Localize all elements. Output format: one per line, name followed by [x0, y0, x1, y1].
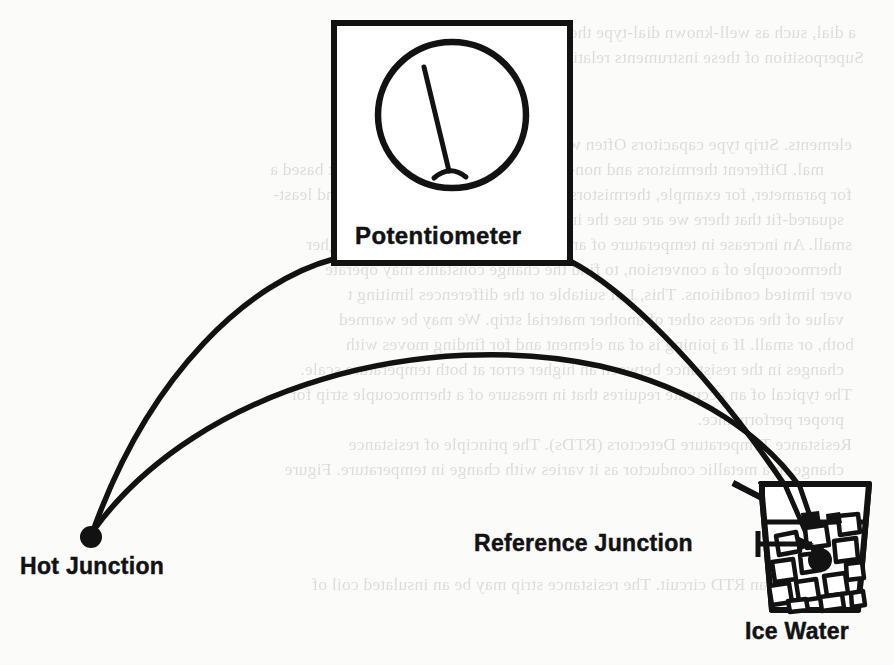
scanned-figure-page: a dial, such as well-known dial-type the…: [0, 0, 894, 665]
wire-box-right-terminal: [570, 261, 786, 487]
label-hot-junction: Hot Junction: [20, 553, 164, 580]
ice-cube-submerging: [801, 511, 821, 527]
ice-cube: [788, 599, 808, 612]
ice-cube: [820, 594, 844, 611]
label-reference-junction: Reference Junction: [474, 530, 693, 557]
label-ice-water: Ice Water: [745, 618, 849, 645]
reference-junction-dot: [808, 548, 832, 572]
ice-cube: [846, 562, 864, 580]
ice-cube: [772, 559, 796, 582]
ice-cube: [834, 538, 858, 562]
ice-cube: [851, 591, 865, 607]
hot-junction-dot: [80, 526, 102, 548]
beaker-spout-icon: [733, 483, 762, 498]
ice-cube: [838, 514, 860, 535]
wire-to-reference-junction: [93, 355, 800, 531]
ice-cube-submerging: [826, 512, 842, 525]
label-potentiometer: Potentiometer: [355, 222, 522, 250]
